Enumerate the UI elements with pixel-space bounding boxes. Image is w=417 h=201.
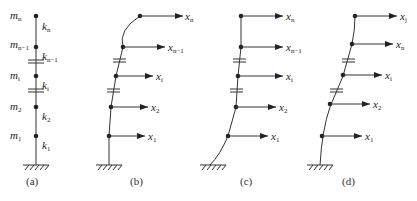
displacement-label: xi [155, 70, 163, 84]
fixed-support-icon [96, 165, 122, 170]
displacement-label: xj [399, 10, 407, 24]
mass-node [34, 74, 39, 79]
stiffness-label-1: k1 [42, 139, 51, 153]
panel-c: xn xn−1 xi x2 x1 (c) [200, 10, 302, 188]
fixed-support-icon [307, 165, 333, 170]
stiffness-label-n-1: kn−1 [42, 50, 58, 64]
displacement-label: x1 [364, 130, 374, 144]
caption-a: (a) [26, 175, 39, 188]
stiffness-label-2: k2 [42, 110, 51, 124]
deformed-column [109, 16, 140, 165]
displacement-label: xn [285, 10, 295, 24]
stiffness-label-n: kn [42, 20, 51, 34]
structural-dynamics-figure: mn mn−1 mi m2 m1 kn kn−1 ki k2 k1 (a) [0, 0, 417, 201]
displacement-label: xn [184, 10, 194, 24]
mass-node [34, 45, 39, 50]
displacement-label: xn−1 [167, 41, 184, 55]
displacement-label: xn−1 [285, 41, 302, 55]
panel-a: mn mn−1 mi m2 m1 kn kn−1 ki k2 k1 (a) [10, 9, 58, 188]
fixed-support-icon [23, 165, 49, 170]
deformed-column [320, 16, 355, 165]
displacement-label: x1 [270, 130, 280, 144]
displacement-label: x2 [150, 101, 160, 115]
mass-label-1: m1 [10, 129, 22, 143]
mass-node [34, 134, 39, 139]
mass-node [34, 14, 39, 19]
caption-d: (d) [342, 175, 355, 188]
displacement-label: xi [384, 69, 392, 83]
displacement-label: xi [285, 70, 293, 84]
break-symbol [342, 59, 355, 62]
panel-b: xn xn−1 xi x2 x1 (b) [96, 10, 194, 188]
mass-node [34, 105, 39, 110]
displacement-label: xn [395, 38, 405, 52]
displacement-label: x1 [147, 130, 157, 144]
deformed-column [210, 16, 241, 165]
break-symbol [230, 89, 243, 92]
fixed-support-icon [200, 165, 226, 170]
displacement-label: x2 [372, 98, 382, 112]
displacement-label: x2 [278, 101, 288, 115]
mass-label-2: m2 [10, 100, 22, 114]
caption-c: (c) [240, 175, 253, 188]
mass-label-i: mi [10, 69, 20, 83]
caption-b: (b) [130, 175, 143, 188]
stiffness-label-i: ki [42, 79, 49, 93]
mass-label-n: mn [10, 9, 22, 23]
panel-d: xj xn xi x2 x1 (d) [307, 10, 407, 188]
mass-label-n-1: mn−1 [10, 38, 29, 52]
